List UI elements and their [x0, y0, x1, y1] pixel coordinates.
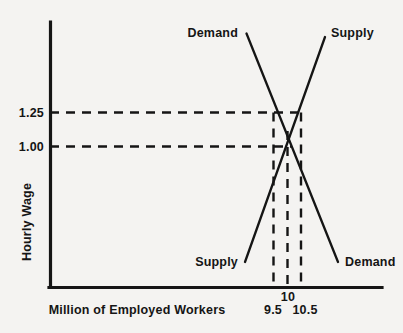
demand-label-top: Demand [187, 26, 238, 40]
supply-label-top: Supply [331, 26, 374, 40]
x-tick-label-10-5: 10.5 [292, 303, 317, 317]
chart-canvas: 1.25 1.00 9.5 10 10.5 Demand Supply Supp… [0, 0, 403, 333]
y-tick-label-1-25: 1.25 [19, 106, 44, 120]
x-tick-label-10: 10 [281, 290, 295, 304]
supply-label-bottom: Supply [195, 255, 238, 269]
x-tick-label-9-5: 9.5 [264, 303, 282, 317]
supply-demand-chart: 1.25 1.00 9.5 10 10.5 Demand Supply Supp… [0, 0, 403, 333]
chart-background [0, 0, 403, 333]
y-axis-title: Hourly Wage [20, 183, 34, 261]
y-tick-label-1-00: 1.00 [19, 140, 44, 154]
demand-label-bottom: Demand [345, 255, 396, 269]
x-axis-title: Million of Employed Workers [49, 303, 226, 317]
